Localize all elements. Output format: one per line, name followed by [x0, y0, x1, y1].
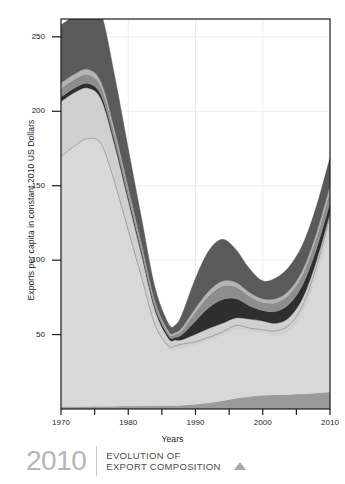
stacked-area-chart — [0, 0, 345, 484]
footer-title: EVOLUTION OF EXPORT COMPOSITION — [106, 450, 220, 473]
footer-title-line1: EVOLUTION OF — [106, 450, 220, 462]
x-tick-label: 2000 — [246, 418, 280, 427]
chart-figure: Exports per capita in constant 2010 US D… — [0, 0, 345, 484]
x-tick-label: 1980 — [111, 418, 145, 427]
y-tick-label: 50 — [19, 330, 45, 339]
y-axis-title: Exports per capita in constant 2010 US D… — [26, 80, 36, 340]
x-tick-label: 1990 — [179, 418, 213, 427]
x-tick-label: 1970 — [44, 418, 78, 427]
x-tick-label: 2010 — [313, 418, 345, 427]
y-tick-label: 150 — [19, 181, 45, 190]
x-axis-title: Years — [0, 434, 345, 444]
y-tick-label: 250 — [19, 32, 45, 41]
chart-footer: 2010 EVOLUTION OF EXPORT COMPOSITION — [26, 446, 247, 476]
footer-title-line2: EXPORT COMPOSITION — [106, 461, 220, 473]
footer-divider — [96, 446, 97, 476]
footer-year: 2010 — [26, 446, 86, 476]
y-tick-label: 100 — [19, 255, 45, 264]
y-tick-label: 200 — [19, 106, 45, 115]
triangle-up-icon — [233, 461, 247, 471]
